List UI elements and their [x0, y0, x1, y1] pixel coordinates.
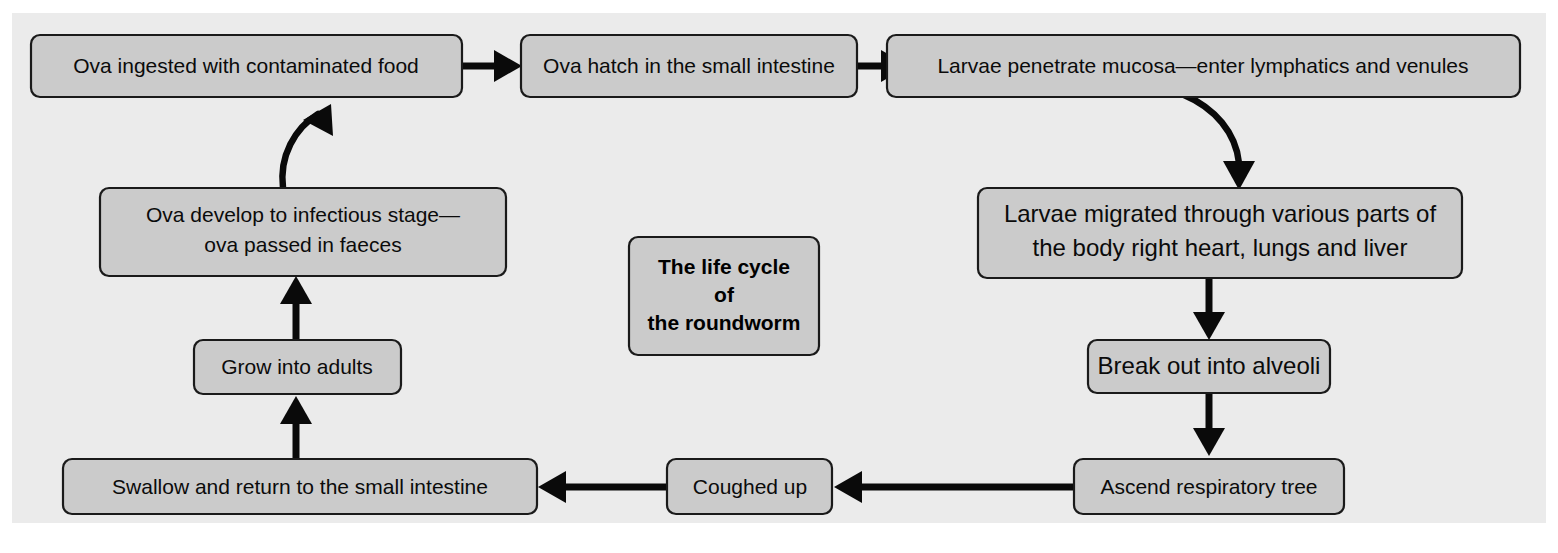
node-grow-adults: Grow into adults — [194, 340, 401, 394]
center-title-line2: of — [714, 283, 735, 306]
node-center-title: The life cycle of the roundworm — [629, 237, 819, 355]
node-ascend-label: Ascend respiratory tree — [1100, 475, 1317, 498]
node-coughed-up-label: Coughed up — [693, 475, 807, 498]
roundworm-lifecycle-figure: Ova ingested with contaminated food Ova … — [0, 0, 1558, 553]
node-larvae-migrated: Larvae migrated through various parts of… — [978, 188, 1462, 278]
center-title-line3: the roundworm — [648, 311, 801, 334]
node-coughed-up: Coughed up — [667, 459, 832, 514]
node-ova-hatch-label: Ova hatch in the small intestine — [543, 54, 835, 77]
node-ova-develop-label-line1: Ova develop to infectious stage— — [146, 203, 460, 226]
node-larvae-penetrate-label: Larvae penetrate mucosa—enter lymphatics… — [937, 54, 1468, 77]
node-ova-ingested: Ova ingested with contaminated food — [31, 35, 462, 97]
node-ova-develop: Ova develop to infectious stage— ova pas… — [100, 188, 506, 276]
node-larvae-migrated-label-line1: Larvae migrated through various parts of — [1004, 200, 1437, 227]
node-ascend: Ascend respiratory tree — [1074, 459, 1344, 514]
node-swallow-return: Swallow and return to the small intestin… — [63, 459, 537, 514]
node-break-out: Break out into alveoli — [1088, 340, 1330, 393]
node-larvae-penetrate: Larvae penetrate mucosa—enter lymphatics… — [887, 35, 1520, 97]
node-ova-ingested-label: Ova ingested with contaminated food — [73, 54, 419, 77]
node-break-out-label: Break out into alveoli — [1098, 352, 1321, 379]
node-ova-hatch: Ova hatch in the small intestine — [521, 35, 857, 97]
center-title-line1: The life cycle — [658, 255, 790, 278]
node-ova-develop-label-line2: ova passed in faeces — [204, 233, 401, 256]
node-larvae-migrated-label-line2: the body right heart, lungs and liver — [1033, 234, 1408, 261]
node-grow-adults-label: Grow into adults — [221, 355, 373, 378]
lifecycle-diagram: Ova ingested with contaminated food Ova … — [0, 0, 1558, 553]
node-swallow-return-label: Swallow and return to the small intestin… — [112, 475, 488, 498]
